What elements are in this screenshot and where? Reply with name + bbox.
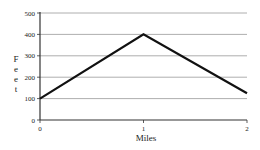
svg-text:e: e (14, 74, 18, 84)
x-axis-ticks: 012 (38, 120, 249, 133)
data-line (40, 34, 247, 98)
svg-text:100: 100 (25, 95, 36, 103)
svg-text:2: 2 (245, 125, 249, 133)
svg-text:300: 300 (25, 52, 36, 60)
svg-text:500: 500 (25, 10, 36, 18)
y-axis-ticks: 0100200300400500 (25, 10, 41, 125)
y-axis-label: Feet (13, 54, 18, 94)
elevation-chart: 0100200300400500 012 Feet Miles (0, 0, 260, 150)
gridlines (40, 13, 247, 99)
svg-text:0: 0 (38, 125, 42, 133)
chart-svg: 0100200300400500 012 Feet Miles (0, 0, 260, 150)
svg-text:200: 200 (25, 74, 36, 82)
svg-text:1: 1 (142, 125, 146, 133)
x-axis-label: Miles (136, 133, 157, 143)
svg-text:400: 400 (25, 31, 36, 39)
svg-text:t: t (15, 84, 18, 94)
svg-text:0: 0 (32, 117, 36, 125)
svg-text:F: F (13, 54, 18, 64)
svg-text:e: e (14, 64, 18, 74)
